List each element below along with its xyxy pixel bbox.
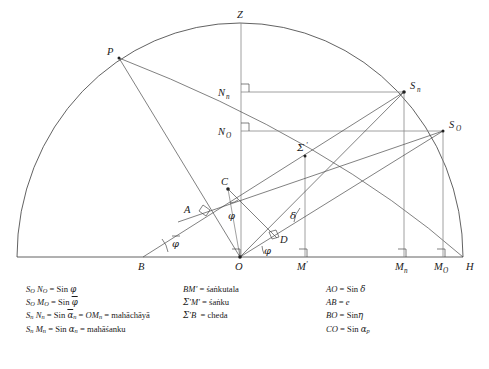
legend-item-right-3: CO = Sin αp [326,323,370,336]
label-text-O: O [235,261,243,272]
angle-text-phi-o: φ [264,245,271,256]
equator-line-b-sn [143,92,404,257]
legend-block: SO NO = Sin φ SO MO = Sin φ Sn Nn = Sin … [0,283,489,369]
angle-label-delta: δ [290,210,296,221]
angle-text-phi-bar: φ [172,238,179,249]
point-label-B: B [138,261,145,272]
label-text-A: A [183,204,191,215]
label-sub-Mn: n [404,267,408,275]
label-text-SO: S [449,119,455,130]
point-label-MO: M O [433,261,449,275]
point-label-O: O [235,261,243,272]
angle-text-phi-c: φ [228,210,235,221]
label-sub-SO: O [456,125,462,133]
label-sub-Sn: n [417,86,421,94]
legend-column-middle: BM' = śaṅkutala Σ'M' = śaṅku Σ'B = cheda [183,283,239,323]
label-text-B: B [138,261,145,272]
label-sub-Sigma: ' [306,142,308,150]
point-label-C: C [221,176,229,187]
point-label-Mn: M n [394,261,408,275]
legend-item-left-3: Sn Mn = Sin αn = mahāśanku [26,323,150,336]
legend-item-mid-2: Σ'B = cheda [183,309,239,322]
o-so-radius [240,131,443,257]
label-text-C: C [221,176,229,187]
dot-sn [402,90,406,94]
point-label-P: P [106,46,114,57]
legend-column-left: SO NO = Sin φ SO MO = Sin φ Sn Nn = Sin … [26,283,150,336]
angle-text-delta: δ [290,210,296,221]
label-text-Z: Z [237,9,243,20]
label-sub-NO: O [226,132,232,140]
declination-line-a-so [178,131,443,222]
angle-label-phi-o: φ [264,245,271,256]
label-sub-MO: O [443,267,449,275]
legend-item-mid-1: Σ'M' = śaṅku [183,296,239,309]
legend-item-left-2: Sn Nn = Sin αn = OMn = mahāchāyā [26,309,150,322]
angle-label-phi-bar: φ [172,236,180,249]
dot-c [226,187,230,191]
dot-p [118,57,121,60]
right-angle-mark-mn [398,249,406,257]
label-text-P: P [106,46,114,57]
label-text-Sn: S [410,80,416,91]
point-label-Sn: S n [410,80,421,94]
legend-item-right-1: AB = e [326,296,370,309]
dot-so [442,130,445,133]
point-label-D: D [279,234,288,245]
dot-sigma [304,155,307,158]
legend-item-left-1: SO MO = Sin φ [26,296,150,309]
right-angle-mark-mprime [299,249,307,257]
right-angle-mark-d [269,230,279,239]
point-label-Nn: N n [217,87,230,101]
celestial-arc [17,23,463,257]
label-sub-Mprime: ' [306,261,308,269]
geometry-diagram: Z P S n S O N n N O Σ ' C A [0,0,489,290]
point-label-NO: N O [217,126,232,140]
label-sub-Nn: n [226,93,230,101]
label-text-Sigma: Σ [296,142,305,153]
angle-label-phi-c: φ [228,210,235,221]
point-label-Z: Z [237,9,243,20]
dot-o [238,255,242,259]
o-sn-radius [240,92,404,257]
right-angle-mark-nn [241,84,249,92]
legend-item-right-0: AO = Sin δ [326,283,370,296]
point-label-H: H [465,261,475,272]
point-label-Sigma: Σ ' [296,142,308,153]
legend-item-left-0: SO NO = Sin φ [26,283,150,296]
figure-container: Z P S n S O N n N O Σ ' C A [0,0,489,369]
point-label-Mprime: M ' [296,261,308,272]
label-text-Nn: N [217,87,226,98]
label-text-H: H [465,261,475,272]
label-text-D: D [279,234,288,245]
right-angle-mark-mo [437,249,445,257]
legend-item-right-2: BO = Sinη [326,309,370,322]
legend-item-mid-0: BM' = śaṅkutala [183,283,239,296]
legend-column-right: AO = Sin δ AB = e BO = Sinη CO = Sin αp [326,283,370,336]
point-label-SO: S O [449,119,462,133]
point-label-A: A [183,204,191,215]
angle-arc-phi-bar [162,239,168,252]
label-text-NO: N [217,126,226,137]
right-angle-mark-no [241,123,249,131]
